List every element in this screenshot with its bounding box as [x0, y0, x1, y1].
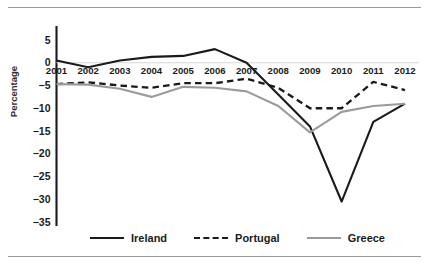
legend-line-solid-gray-icon [307, 237, 341, 239]
x-tick-label: 2006 [198, 66, 232, 76]
legend-label-portugal: Portugal [235, 232, 280, 244]
series-line-greece [57, 84, 406, 132]
legend-label-ireland: Ireland [131, 232, 167, 244]
axis-layer [57, 26, 420, 226]
y-tick-label: −15 [25, 126, 51, 137]
legend-item-greece: Greece [307, 232, 385, 244]
legend-line-solid-dark-icon [90, 237, 124, 239]
y-tick-label: −35 [25, 217, 51, 228]
legend-label-greece: Greece [348, 232, 385, 244]
x-tick-label: 2008 [261, 66, 295, 76]
chart-figure: Percentage 50−5−10−15−20−25−30−35 200120… [0, 0, 429, 264]
x-tick-label: 2002 [71, 66, 105, 76]
y-tick-label: −25 [25, 171, 51, 182]
chart-legend: Ireland Portugal Greece [90, 228, 385, 248]
x-tick-label: 2003 [103, 66, 137, 76]
legend-line-dashed-icon [194, 237, 228, 239]
y-tick-label: −20 [25, 148, 51, 159]
y-tick-label: −10 [25, 103, 51, 114]
series-line-portugal [57, 79, 406, 109]
legend-item-ireland: Ireland [90, 232, 167, 244]
x-tick-label: 2004 [135, 66, 169, 76]
line-chart-plot [0, 0, 429, 264]
x-tick-label: 2012 [388, 66, 422, 76]
x-tick-label: 2009 [293, 66, 327, 76]
x-tick-label: 2010 [325, 66, 359, 76]
y-tick-label: 5 [25, 35, 51, 46]
x-tick-label: 2005 [166, 66, 200, 76]
x-tick-label: 2011 [356, 66, 390, 76]
y-tick-label: −5 [25, 80, 51, 91]
y-tick-label: −30 [25, 194, 51, 205]
x-tick-label: 2001 [40, 66, 74, 76]
x-tick-label: 2007 [230, 66, 264, 76]
legend-item-portugal: Portugal [194, 232, 280, 244]
